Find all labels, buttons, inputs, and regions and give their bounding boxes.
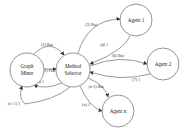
edge-label: (4) 1 (100, 42, 108, 47)
edge-4-return-agent1 (90, 36, 130, 64)
node-label: Agent 1 (128, 17, 145, 23)
edge-label: (2) Plat (43, 68, 56, 73)
edge-n-plus-1-return (21, 86, 70, 104)
edge-label: (7) 1 (132, 77, 140, 82)
edge-label: (n) 1 (82, 102, 90, 107)
edge-7-return-agent2 (90, 72, 150, 78)
workflow-diagram: (1) Bat (2) Plat (3) 1 (3) Bat (4) 1 (6)… (0, 0, 186, 128)
edge-label: (n+1) 1 (8, 101, 20, 106)
node-agent-n: Agent n (102, 95, 134, 127)
edge-1-bat (34, 46, 64, 55)
edge-label: (n-1) Bat (88, 84, 104, 89)
edge-label: (1) Bat (41, 42, 54, 47)
node-label: Graph (21, 63, 34, 69)
node-label: Method (65, 63, 82, 69)
edge-label: (6) Bat (112, 53, 125, 58)
node-label: Selector (65, 70, 82, 76)
node-label: Agent n (110, 108, 127, 114)
node-label: Agent 2 (155, 61, 172, 67)
node-agent-1: Agent 1 (120, 4, 152, 36)
node-method-selector: Method Selector (56, 53, 90, 87)
edge-n-return-agent-n (80, 86, 102, 111)
node-label: Miner (21, 70, 34, 76)
node-agent-2: Agent 2 (147, 48, 179, 80)
node-graph-miner: Graph Miner (10, 53, 44, 87)
edge-label: (3) Bat (85, 22, 98, 27)
